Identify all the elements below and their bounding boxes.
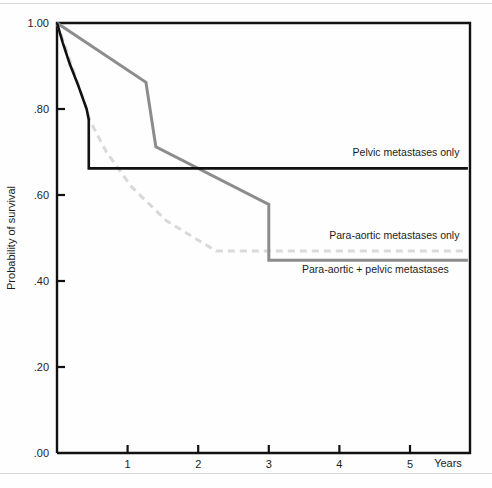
plot-area: 1.00.80.60.40.20.00 12345 Probability of…	[0, 0, 492, 488]
x-tick-label: 1	[125, 458, 131, 470]
series-line	[57, 23, 468, 260]
y-tick-label: 1.00	[28, 17, 49, 29]
y-axis-tick-labels: 1.00.80.60.40.20.00	[28, 17, 49, 459]
series-line	[57, 23, 468, 251]
series-lines	[57, 23, 468, 260]
y-tick-label: .60	[34, 189, 49, 201]
x-axis-tick-labels: 12345	[125, 458, 414, 470]
series-annotation-label: Para-aortic + pelvic metastases	[302, 263, 449, 275]
x-tick-label: 2	[195, 458, 201, 470]
y-tick-label: .00	[34, 447, 49, 459]
x-axis-title: Years	[434, 457, 462, 469]
series-annotation-label: Pelvic metastases only	[353, 146, 461, 158]
y-tick-label: .20	[34, 361, 49, 373]
series-annotation-label: Para-aortic metastases only	[329, 229, 460, 241]
x-tick-label: 5	[407, 458, 413, 470]
x-tick-label: 3	[266, 458, 272, 470]
y-tick-label: .40	[34, 275, 49, 287]
x-tick-label: 4	[336, 458, 342, 470]
series-annotations: Pelvic metastases onlyPara-aortic metast…	[302, 146, 460, 275]
y-axis-title: Probability of survival	[5, 186, 17, 290]
survival-chart-figure: 1.00.80.60.40.20.00 12345 Probability of…	[0, 0, 492, 488]
y-tick-label: .80	[34, 103, 49, 115]
